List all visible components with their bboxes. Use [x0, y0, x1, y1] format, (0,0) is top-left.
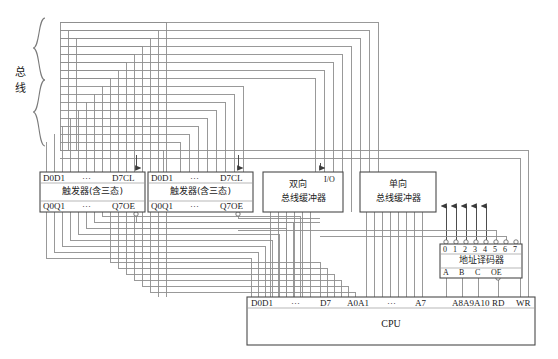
address-decoder-output-7: 7: [513, 246, 517, 254]
cpu-pin-d7: D7: [320, 299, 331, 308]
flipflop-left-pin-d7cl: D7CL: [112, 174, 135, 183]
unidir-buffer-line2: 总线缓冲器: [360, 194, 436, 203]
address-decoder-output-3: 3: [473, 246, 477, 254]
cpu-pin-a8a9a10: A8A9A10: [452, 299, 490, 308]
cpu-pin-a0a1: A0A1: [347, 299, 369, 308]
flipflop-right-pin-q0q1: Q0Q1: [151, 202, 173, 211]
flipflop-left-pin-d0d1: D0D1: [43, 174, 65, 183]
cpu-title: CPU: [247, 319, 535, 329]
bidir-buffer-io-label: I/O: [324, 176, 335, 184]
bus-label-char-2: 线: [15, 83, 26, 94]
address-decoder-oe-label: OE: [491, 269, 502, 277]
flipflop-left-pin-q0q1: Q0Q1: [43, 202, 65, 211]
flipflop-left-pin-q7oe: Q7OE: [112, 202, 135, 211]
flipflop-right-pin-dots-top: ···: [190, 174, 199, 183]
cpu-pin-wr: WR: [516, 299, 531, 308]
unidir-buffer-box: [360, 172, 436, 212]
flipflop-left-title: 触发器(含三态): [40, 187, 145, 196]
address-decoder-input-C: C: [475, 269, 480, 277]
address-decoder-output-1: 1: [453, 246, 457, 254]
flipflop-left-pin-dots-top: ···: [82, 174, 91, 183]
address-decoder-output-0: 0: [443, 246, 447, 254]
flipflop-right-pin-dots-bottom: ···: [190, 202, 199, 211]
address-decoder-output-5: 5: [493, 246, 497, 254]
bus-label-char-1: 总: [15, 67, 26, 78]
flipflop-right-title: 触发器(含三态): [148, 187, 253, 196]
cpu-pin-: ···: [291, 299, 300, 308]
address-decoder-output-4: 4: [483, 246, 487, 254]
address-decoder-title: 地址译码器: [440, 256, 522, 265]
bidir-buffer-line2: 总线缓冲器: [263, 194, 343, 203]
bidir-buffer-line1: 双向: [263, 180, 333, 189]
address-decoder-input-A: A: [443, 269, 449, 277]
diagram-canvas: 总 线 D0D1 ··· D7CL 触发器(含三态) Q0Q1 ··· Q7OE…: [0, 0, 558, 359]
cpu-pin-: ···: [387, 299, 396, 308]
address-decoder-input-B: B: [459, 269, 464, 277]
flipflop-right-pin-q7oe: Q7OE: [220, 202, 243, 211]
cpu-pin-d0d1: D0D1: [251, 299, 273, 308]
flipflop-right-pin-d7cl: D7CL: [220, 174, 243, 183]
cpu-pin-a7: A7: [415, 299, 426, 308]
flipflop-left-pin-dots-bottom: ···: [82, 202, 91, 211]
bus-brace: [33, 18, 45, 146]
cpu-pin-rd: RD: [492, 299, 505, 308]
address-decoder-output-6: 6: [503, 246, 507, 254]
unidir-buffer-line1: 单向: [360, 180, 436, 189]
flipflop-right-pin-d0d1: D0D1: [151, 174, 173, 183]
address-decoder-output-2: 2: [463, 246, 467, 254]
